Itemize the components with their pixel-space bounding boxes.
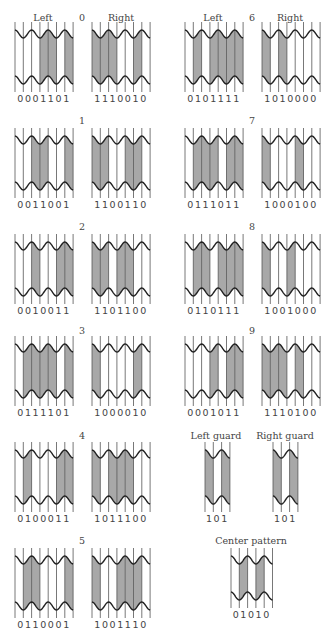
left-bit-string: 0110001 [17,619,71,630]
left-encoding-symbol [184,22,244,92]
left-guard-label: Left guard [191,430,242,441]
left-encoding-symbol [14,336,74,406]
right-bit-string: 1100110 [94,199,148,210]
right-encoding-symbol [91,442,151,512]
left-encoding-symbol [14,128,74,198]
left-encoding-symbol [184,336,244,406]
left-bit-string: 0111011 [187,199,241,210]
left-bit-string: 0100011 [17,513,71,524]
right-encoding-symbol [91,548,151,618]
left-encoding-symbol [14,234,74,304]
left-guard-bits: 101 [206,513,229,524]
right-guard-symbol [272,442,299,512]
digit-label: 7 [249,115,255,126]
left-bit-string: 0111101 [17,407,71,418]
digit-label: 9 [249,325,255,336]
bar-module [239,556,247,600]
right-bit-string: 1001110 [94,619,148,630]
left-bit-string: 0010011 [17,305,71,316]
left-bit-string: 0110111 [187,305,241,316]
right-encoding-symbol [261,234,321,304]
right-bit-string: 1001000 [264,305,318,316]
digit-label: 0 [79,12,85,23]
right-bit-string: 1010000 [264,93,318,104]
digit-label: 5 [79,535,85,546]
left-encoding-symbol [184,128,244,198]
right-bit-string: 1000010 [94,407,148,418]
right-encoding-symbol [261,128,321,198]
right-encoding-symbol [91,22,151,92]
bar-module [256,556,264,600]
left-encoding-symbol [14,22,74,92]
right-bit-string: 1011100 [94,513,148,524]
left-encoding-symbol [184,234,244,304]
left-guard-symbol [204,442,231,512]
right-encoding-symbol [91,336,151,406]
left-bit-string: 0001011 [187,407,241,418]
digit-label: 4 [79,430,85,441]
left-encoding-symbol [14,548,74,618]
digit-label: 6 [249,12,255,23]
digit-label: 3 [79,325,85,336]
right-encoding-symbol [91,234,151,304]
left-encoding-symbol [14,442,74,512]
right-encoding-symbol [261,336,321,406]
right-guard-label: Right guard [256,430,314,441]
center-pattern-label: Center pattern [215,535,287,546]
right-bit-string: 1110010 [94,93,148,104]
digit-label: 8 [249,221,255,232]
digit-label: 1 [79,115,85,126]
center-pattern-symbol [230,548,274,608]
right-bit-string: 1101100 [94,305,148,316]
right-bit-string: 1110100 [264,407,318,418]
right-encoding-symbol [91,128,151,198]
right-bit-string: 1000100 [264,199,318,210]
digit-label: 2 [79,221,85,232]
left-bit-string: 0011001 [17,199,71,210]
right-guard-bits: 101 [274,513,297,524]
left-bit-string: 0001101 [17,93,71,104]
center-pattern-bits: 01010 [233,609,271,620]
right-encoding-symbol [261,22,321,92]
left-bit-string: 0101111 [187,93,241,104]
